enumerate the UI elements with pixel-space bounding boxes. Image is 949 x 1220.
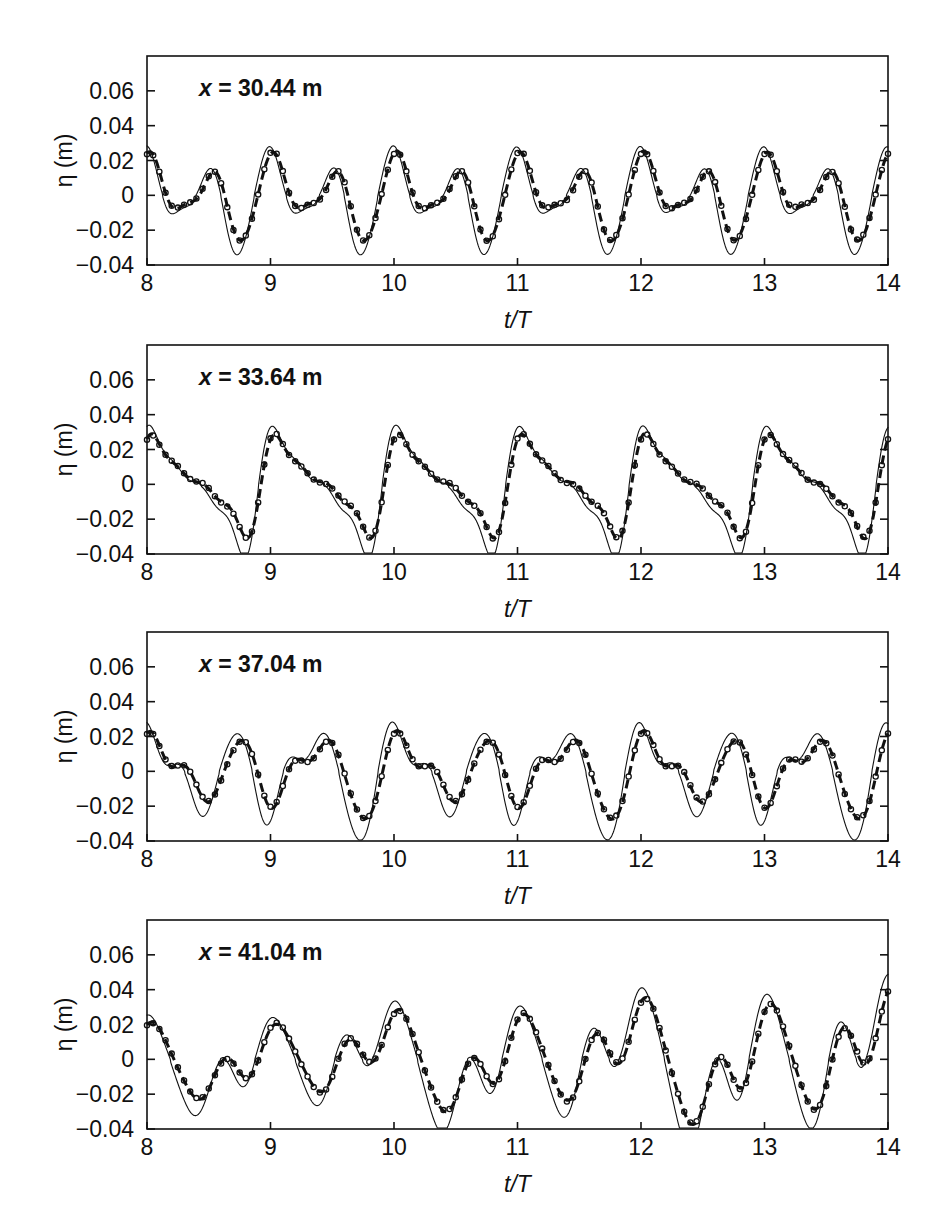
- data-point: [323, 1087, 328, 1092]
- data-point: [620, 216, 625, 221]
- annotation-symbol: x: [197, 364, 213, 390]
- data-point: [484, 524, 489, 529]
- data-point: [181, 202, 186, 207]
- data-point: [595, 503, 600, 508]
- data-point: [336, 493, 341, 498]
- data-point: [817, 1102, 822, 1107]
- data-point: [570, 482, 575, 487]
- data-point: [817, 187, 822, 192]
- data-point: [570, 1095, 575, 1100]
- x-tick-label: 11: [506, 1134, 530, 1160]
- data-point: [694, 187, 699, 192]
- data-point: [472, 761, 477, 766]
- data-point: [848, 227, 853, 232]
- data-point: [824, 741, 829, 746]
- y-axis-label: η (m): [51, 134, 77, 188]
- data-point: [169, 1051, 174, 1056]
- data-point: [385, 747, 390, 752]
- annotation-equals: =: [212, 939, 238, 965]
- data-point: [601, 511, 606, 516]
- data-point: [212, 792, 217, 797]
- series-dashed-line: [147, 151, 888, 241]
- data-point: [225, 762, 230, 767]
- data-point: [367, 233, 372, 238]
- y-tick-label: −0.04: [76, 541, 134, 567]
- data-point: [466, 1061, 471, 1066]
- data-point: [719, 503, 724, 508]
- data-point: [855, 815, 860, 820]
- data-point: [515, 436, 520, 441]
- data-point: [768, 800, 773, 805]
- data-point: [422, 1068, 427, 1073]
- data-point: [867, 215, 872, 220]
- data-point: [422, 464, 427, 469]
- x-tick-label: 12: [628, 559, 654, 585]
- data-point: [564, 1099, 569, 1104]
- data-point: [632, 748, 637, 753]
- data-point: [657, 190, 662, 195]
- data-point: [743, 752, 748, 757]
- data-point: [558, 477, 563, 482]
- data-point: [490, 1081, 495, 1086]
- data-point: [144, 731, 149, 736]
- data-point: [577, 174, 582, 179]
- annotation-symbol: x: [197, 651, 213, 677]
- data-point: [595, 791, 600, 796]
- data-point: [466, 180, 471, 185]
- data-point: [194, 782, 199, 787]
- data-point: [206, 485, 211, 490]
- data-point: [836, 500, 841, 505]
- y-tick-label: 0.06: [89, 78, 134, 104]
- data-point: [194, 196, 199, 201]
- data-point: [490, 234, 495, 239]
- data-point: [737, 233, 742, 238]
- data-point: [496, 1077, 501, 1082]
- data-point: [787, 457, 792, 462]
- data-point: [867, 528, 872, 533]
- data-point: [305, 759, 310, 764]
- data-point: [805, 200, 810, 205]
- panel-annotation: x = 37.04 m: [197, 651, 322, 677]
- data-point: [663, 764, 668, 769]
- data-point: [391, 437, 396, 442]
- data-point: [459, 792, 464, 797]
- data-point: [305, 471, 310, 476]
- data-point: [725, 510, 730, 515]
- data-point: [163, 757, 168, 762]
- series-solid-line: [147, 722, 888, 840]
- annotation-equals: =: [212, 651, 238, 677]
- data-point: [503, 1059, 508, 1064]
- data-point: [787, 202, 792, 207]
- data-point: [873, 192, 878, 197]
- data-point: [478, 227, 483, 232]
- data-point: [645, 432, 650, 437]
- data-point: [657, 1025, 662, 1030]
- data-point: [848, 510, 853, 515]
- data-point: [237, 1070, 242, 1075]
- data-point: [595, 204, 600, 209]
- x-tick-label: 13: [752, 1134, 778, 1160]
- data-point: [515, 1017, 520, 1022]
- data-point: [200, 186, 205, 191]
- x-tick-label: 9: [264, 559, 277, 585]
- data-point: [194, 1096, 199, 1101]
- data-point: [367, 813, 372, 818]
- data-point: [286, 190, 291, 195]
- data-point: [811, 747, 816, 752]
- data-point: [342, 1041, 347, 1046]
- data-point: [441, 479, 446, 484]
- data-point: [608, 237, 613, 242]
- data-point: [144, 152, 149, 157]
- data-point: [737, 536, 742, 541]
- data-point: [713, 180, 718, 185]
- data-point: [564, 480, 569, 485]
- data-point: [268, 1025, 273, 1030]
- y-tick-label: 0: [121, 1046, 134, 1072]
- data-point: [564, 197, 569, 202]
- data-point: [404, 743, 409, 748]
- data-point: [527, 168, 532, 173]
- x-tick-label: 10: [381, 846, 407, 872]
- data-point: [157, 743, 162, 748]
- data-point: [293, 1049, 298, 1054]
- data-point: [533, 766, 538, 771]
